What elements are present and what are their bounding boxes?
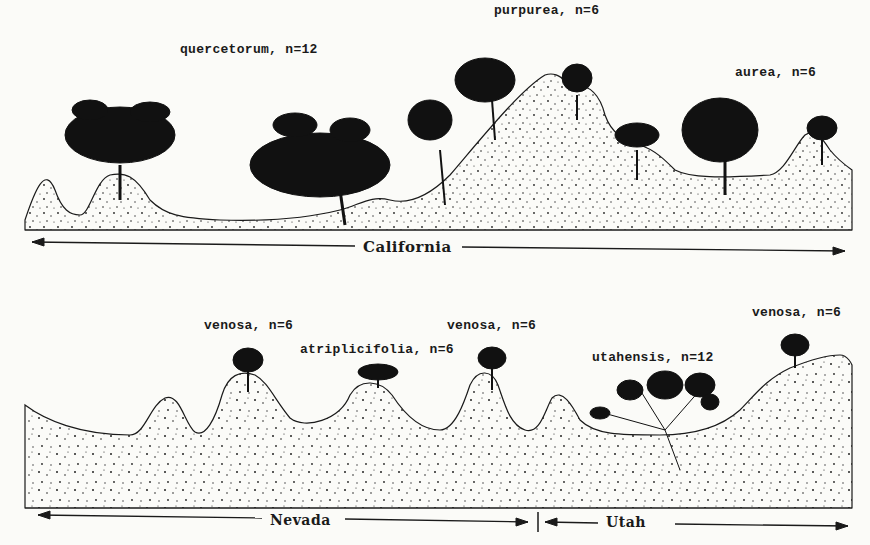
label-venosa-3: venosa, n=6 (752, 305, 841, 320)
label-venosa-1: venosa, n=6 (204, 318, 293, 333)
region-utah: Utah (600, 514, 652, 530)
label-atriplicifolia: atriplicifolia, n=6 (300, 342, 454, 357)
terrain-diagram (0, 0, 870, 545)
label-utahensis: utahensis, n=12 (592, 350, 714, 365)
label-venosa-2: venosa, n=6 (447, 318, 536, 333)
nevada-utah-terrain (25, 355, 852, 508)
plant-quercetorum-1 (65, 100, 175, 200)
utah-range-arrow (545, 518, 848, 530)
label-aurea: aurea, n=6 (735, 65, 816, 80)
region-nevada: Nevada (264, 512, 337, 528)
label-quercetorum: quercetorum, n=12 (180, 42, 318, 57)
region-california: California (357, 238, 458, 256)
label-purpurea: purpurea, n=6 (494, 3, 599, 18)
